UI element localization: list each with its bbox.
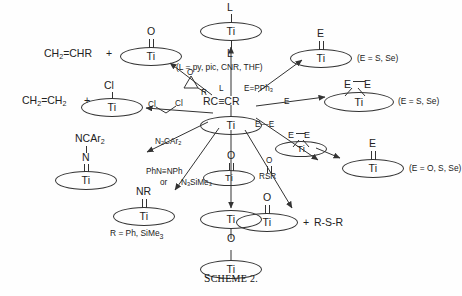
ti-label: Ti bbox=[369, 163, 378, 174]
reagent-dce-cl-left: Cl bbox=[148, 100, 156, 109]
reagent-sulfoxide-label: RSR bbox=[259, 172, 276, 181]
reagent-diazoalkane: N2CAr2 bbox=[155, 137, 181, 146]
arrow-to-dichalcogenide-ring bbox=[256, 97, 325, 106]
imido-ti-disc: Ti bbox=[113, 207, 175, 226]
plus-sign-oxo-sulfide: + bbox=[303, 217, 309, 229]
reagent-ligand-L: L bbox=[219, 84, 224, 93]
ethylene-formula: CH2=CH2 bbox=[22, 95, 66, 108]
oxo-sulfide-substituent: O bbox=[263, 192, 271, 204]
plus-sign-top-left: + bbox=[106, 48, 112, 60]
ti-label: Ti bbox=[147, 51, 156, 62]
oxo-top-left-substituent: O bbox=[147, 26, 155, 38]
arrow-to-chloride bbox=[146, 108, 213, 113]
alkene-formula: CH2=CHR bbox=[44, 48, 92, 61]
reagent-label: N2CAr2 bbox=[155, 137, 181, 146]
central-fragment-label: RC≡CR bbox=[203, 96, 239, 108]
hydrazonido-top-label: NCAr2 bbox=[75, 133, 105, 146]
oxo-top-left-ti-disc: Ti bbox=[120, 47, 182, 66]
ti-label: Ti bbox=[263, 217, 272, 228]
oxo-center-substituent: O bbox=[227, 150, 235, 162]
chalcogenido-lower-note: (E = O, S, Se) bbox=[409, 163, 461, 173]
small-ring-right-label: E bbox=[304, 131, 310, 141]
ti-label: Ti bbox=[108, 102, 117, 113]
ti-label: Ti bbox=[227, 26, 236, 37]
central-ti-disc: Ti bbox=[200, 116, 262, 135]
ligand-top-label: L bbox=[227, 2, 233, 14]
ethylene-product-label: CH2=CH2 bbox=[22, 95, 66, 108]
chalcogenido-top-note: (E = S, Se) bbox=[357, 53, 398, 63]
ti-label: Ti bbox=[297, 144, 305, 154]
oxo-center-ti-disc: Ti bbox=[203, 170, 255, 186]
caption-word: CHEME bbox=[211, 273, 248, 284]
reagent-dichalcogenide: E—E bbox=[255, 120, 274, 129]
ncar2-formula: NCAr2 bbox=[75, 133, 105, 146]
epoxide-ring bbox=[184, 76, 198, 88]
reagent-epoxide-oxygen: O bbox=[187, 68, 193, 77]
small-ring-ti-disc: Ti bbox=[275, 141, 327, 157]
hydrazonido-mid-label: N bbox=[82, 152, 90, 164]
small-ring-left-label: E bbox=[288, 131, 294, 141]
ti-label: Ti bbox=[355, 97, 364, 108]
ti-label: Ti bbox=[317, 53, 326, 64]
dichalcogenide-ring-note: (E = S, Se) bbox=[398, 96, 439, 106]
figure-caption: SCHEME 2. bbox=[0, 272, 462, 284]
reagent-dce-cl-right: Cl bbox=[175, 99, 183, 108]
reagent-chalcogen-phosphine: E=PPh3 bbox=[244, 84, 273, 93]
reagent-or-word: or bbox=[160, 178, 167, 187]
imido-substituent: NR bbox=[136, 186, 151, 198]
reaction-scheme-figure: RC≡CR Ti L Ti L (L = py, pic, CNR, THF) … bbox=[0, 0, 462, 296]
ti-label: Ti bbox=[225, 173, 233, 183]
bond-dichloroethane-chain bbox=[156, 106, 176, 113]
chalcogenido-lower-ti-disc: Ti bbox=[342, 159, 404, 178]
dichalcogenide-ring-right-label: E bbox=[364, 79, 371, 91]
chalcogenido-top-ti-disc: Ti bbox=[290, 49, 352, 68]
reagent-label: E=PPh3 bbox=[244, 84, 273, 93]
chalcogenido-top-substituent: E bbox=[317, 28, 324, 40]
chalcogenido-lower-substituent: E bbox=[369, 138, 376, 150]
oxo-sulfide-ti-disc: Ti bbox=[236, 213, 298, 232]
ti-label: Ti bbox=[140, 211, 149, 222]
bond-ligand-top bbox=[231, 14, 232, 22]
central-alkyne-complex: RC≡CR bbox=[203, 96, 239, 108]
caption-first-letter: S bbox=[204, 272, 211, 284]
reagent-epoxide-substituent: R bbox=[201, 88, 207, 97]
dichalcogenide-ring-left-label: E bbox=[344, 79, 351, 91]
reagent-sulfoxide-oxygen: O bbox=[266, 156, 272, 165]
chloride-substituent: Cl bbox=[104, 80, 114, 92]
caption-number: 2. bbox=[250, 273, 258, 284]
ti-label: Ti bbox=[82, 175, 91, 186]
ligand-adduct-ti-disc: Ti bbox=[200, 22, 262, 41]
hydrazonido-ti-disc: Ti bbox=[55, 171, 117, 190]
dichalcogenide-ring-ti-disc: Ti bbox=[324, 92, 394, 112]
reagent-azobenzene: PhN≡NPh bbox=[146, 167, 183, 176]
chloride-ti-disc: Ti bbox=[81, 98, 143, 117]
ti-label: Ti bbox=[227, 214, 236, 225]
imido-r-definition-note: R = Ph, SiMe3 bbox=[110, 228, 163, 240]
alkene-product-label: CH2=CHR bbox=[44, 48, 92, 61]
oxo-dimer-bridge-label: O bbox=[227, 233, 235, 245]
ti-label: Ti bbox=[227, 120, 236, 131]
r-group-note: R = Ph, SiMe3 bbox=[110, 228, 163, 240]
sulfide-product-label: R-S-R bbox=[314, 217, 343, 229]
reagent-chalcogen-E: E bbox=[284, 97, 289, 106]
ligand-bottom-label: L bbox=[227, 48, 233, 60]
